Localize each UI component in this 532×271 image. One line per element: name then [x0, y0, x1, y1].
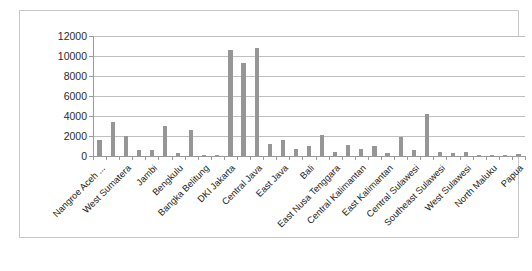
- x-axis-tick: [329, 156, 330, 160]
- x-axis-tick: [433, 156, 434, 160]
- x-axis-tick: [473, 156, 474, 160]
- x-axis-tick: [276, 156, 277, 160]
- bar: [425, 114, 429, 156]
- x-axis-tick: [420, 156, 421, 160]
- x-axis-tick: [499, 156, 500, 160]
- y-axis-tick: [89, 136, 93, 137]
- y-axis-tick-label: 10000: [21, 51, 87, 61]
- bar: [255, 48, 259, 156]
- bar: [372, 146, 376, 156]
- x-axis-tick: [172, 156, 173, 160]
- x-axis-tick: [185, 156, 186, 160]
- x-axis-tick: [381, 156, 382, 160]
- x-axis-tick: [158, 156, 159, 160]
- x-axis-tick: [394, 156, 395, 160]
- bar: [268, 144, 272, 157]
- bar: [228, 50, 232, 156]
- x-axis-tick: [407, 156, 408, 160]
- x-axis-tick: [316, 156, 317, 160]
- x-axis-tick: [106, 156, 107, 160]
- bar: [399, 137, 403, 156]
- x-axis-tick: [368, 156, 369, 160]
- bar: [281, 140, 285, 156]
- y-axis-tick-label: 6000: [21, 91, 87, 101]
- x-axis-ticks: [93, 156, 525, 161]
- y-axis-labels: 120001000080006000400020000: [20, 11, 93, 156]
- x-axis-tick: [224, 156, 225, 160]
- y-axis-tick: [89, 96, 93, 97]
- chart-frame: 120001000080006000400020000 Nangroe Aceh…: [19, 10, 519, 238]
- x-axis-tick: [446, 156, 447, 160]
- x-axis-tick: [486, 156, 487, 160]
- y-axis-tick-label: 12000: [21, 31, 87, 41]
- x-axis-tick: [237, 156, 238, 160]
- x-axis-tick: [198, 156, 199, 160]
- x-axis-tick: [145, 156, 146, 160]
- x-axis-tick: [250, 156, 251, 160]
- y-axis-tick-label: 4000: [21, 111, 87, 121]
- x-axis-tick: [211, 156, 212, 160]
- y-axis-tick-label: 2000: [21, 131, 87, 141]
- bar: [124, 136, 128, 156]
- x-axis-tick: [119, 156, 120, 160]
- x-axis-tick: [512, 156, 513, 160]
- bar: [189, 130, 193, 157]
- bar: [97, 140, 101, 156]
- x-axis-tick: [302, 156, 303, 160]
- y-axis-tick-label: 0: [21, 151, 87, 161]
- bar-series: [93, 36, 525, 156]
- x-axis-labels: Nangroe Aceh ...West SumateraJambiBengku…: [93, 163, 525, 263]
- bar: [359, 149, 363, 156]
- x-axis-tick: [342, 156, 343, 160]
- bar: [294, 149, 298, 156]
- x-axis-tick: [263, 156, 264, 160]
- y-axis-tick: [89, 36, 93, 37]
- y-axis-tick: [89, 116, 93, 117]
- bar: [111, 122, 115, 157]
- bar: [320, 135, 324, 157]
- x-axis-tick: [525, 156, 526, 160]
- bar: [307, 146, 311, 156]
- x-axis-tick: [355, 156, 356, 160]
- y-axis-tick: [89, 76, 93, 77]
- x-axis-tick: [93, 156, 94, 160]
- x-axis-tick: [289, 156, 290, 160]
- plot-area: Nangroe Aceh ...West SumateraJambiBengku…: [93, 36, 525, 156]
- bar: [346, 145, 350, 156]
- y-axis-tick-label: 8000: [21, 71, 87, 81]
- y-axis-tick: [89, 156, 93, 157]
- x-axis-tick: [460, 156, 461, 160]
- bar: [163, 126, 167, 157]
- bar: [241, 63, 245, 156]
- y-axis-tick: [89, 56, 93, 57]
- x-axis-tick: [132, 156, 133, 160]
